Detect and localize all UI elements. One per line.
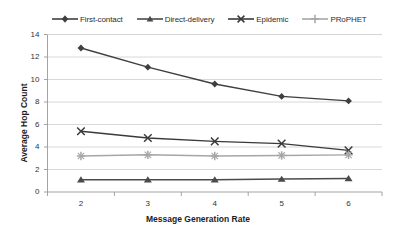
plot-area: 02468101214 23456 Average Hop Count Mess…: [0, 0, 396, 235]
x-tick-label: 4: [200, 199, 230, 208]
x-axis-title: Message Generation Rate: [0, 214, 396, 224]
gridlines: [48, 35, 383, 193]
series-layer: [77, 45, 353, 183]
x-tick-label: 6: [334, 199, 364, 208]
series-prophet: [77, 151, 353, 161]
x-tick-label: 2: [66, 199, 96, 208]
x-tick-marks: [48, 192, 383, 196]
y-tick-marks: [44, 35, 48, 193]
series-epidemic: [77, 127, 352, 154]
series-direct-delivery: [77, 175, 353, 182]
y-axis-title: Average Hop Count: [19, 43, 29, 203]
chart-container: First-contact Direct-delivery Epidemic: [0, 0, 396, 235]
x-tick-label: 5: [267, 199, 297, 208]
plot-frame: [48, 35, 383, 193]
series-first-contact: [78, 45, 352, 105]
x-tick-label: 3: [133, 199, 163, 208]
y-tick-label: 14: [18, 30, 40, 39]
